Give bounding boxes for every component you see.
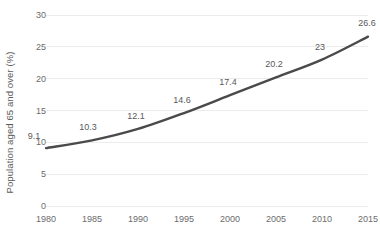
data-point-label: 20.2 — [265, 59, 283, 69]
data-point-label: 14.6 — [173, 95, 191, 105]
data-point-label: 10.3 — [79, 122, 97, 132]
data-point-label: 9.1 — [28, 131, 41, 141]
data-point-labels: 9.110.312.114.617.420.22326.6 — [0, 0, 380, 245]
data-point-label: 17.4 — [219, 77, 237, 87]
chart-container: Population aged 65 and over (%) 05101520… — [0, 0, 380, 245]
data-point-label: 12.1 — [127, 111, 145, 121]
data-point-label: 23 — [315, 42, 325, 52]
data-point-label: 26.6 — [358, 18, 376, 28]
